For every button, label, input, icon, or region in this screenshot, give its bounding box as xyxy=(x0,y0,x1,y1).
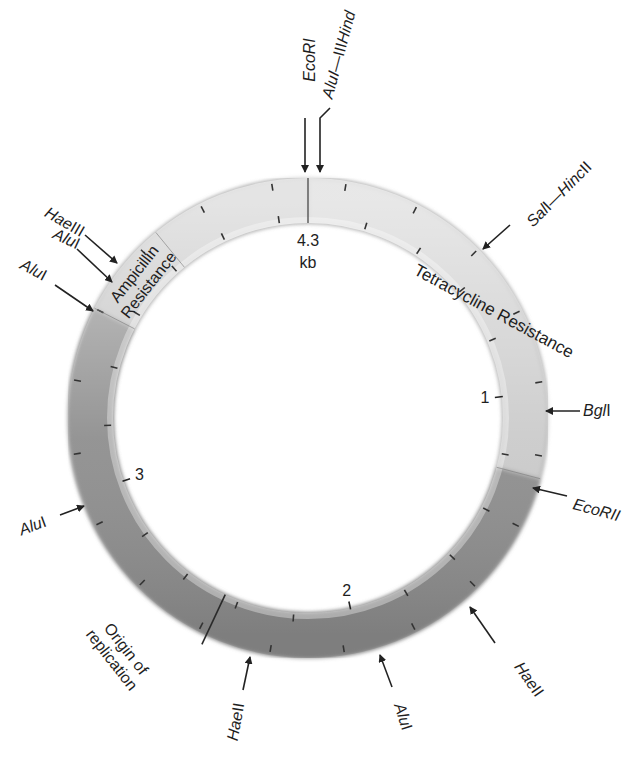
restriction-site-ecorii: EcoRII xyxy=(533,488,622,525)
tick-outer xyxy=(535,382,542,383)
site-label: AluI—IIIHind xyxy=(319,8,359,101)
arrow-icon xyxy=(60,506,84,515)
tick-major xyxy=(349,602,351,610)
scale-label-1: 1 xyxy=(480,389,489,406)
arrow-icon xyxy=(533,488,567,496)
tick-outer xyxy=(270,645,271,652)
tick-outer xyxy=(74,453,81,454)
tick-outer xyxy=(343,645,344,652)
site-label: BglI xyxy=(583,402,611,419)
site-label: HaeII xyxy=(224,701,247,742)
origin-of-replication-label: Origin ofreplication xyxy=(83,615,155,694)
scale-label-2: 2 xyxy=(342,582,351,599)
restriction-site-alui: AluI xyxy=(17,255,93,311)
plasmid-map: Tetracycline ResistanceAmpicillinResista… xyxy=(0,0,635,761)
tick-outer xyxy=(74,380,81,381)
site-label: AluI xyxy=(17,255,50,283)
arrow-icon xyxy=(483,225,510,249)
tick-major xyxy=(122,479,130,482)
arrow-icon xyxy=(55,285,93,311)
ring-dark-section xyxy=(68,308,540,658)
restriction-site-ecori: EcoRI xyxy=(301,38,318,172)
site-label: EcoRII xyxy=(571,496,622,525)
arrow-icon xyxy=(320,108,330,172)
restriction-site-haeii: HaeII xyxy=(470,607,547,700)
site-label: SalI—HincII xyxy=(523,158,595,230)
restriction-site-sali-hincii: SalI—HincII xyxy=(483,158,595,249)
plasmid-ring xyxy=(68,178,548,658)
tick-outer xyxy=(272,184,273,191)
tick-outer xyxy=(345,184,346,191)
restriction-site-haeii: HaeII xyxy=(224,657,250,742)
site-label: HaeII xyxy=(511,659,547,700)
tick-inner xyxy=(293,614,294,621)
tick-major xyxy=(495,397,503,398)
site-label: AluI xyxy=(16,513,49,539)
site-label: EcoRI xyxy=(301,38,318,82)
tick-outer xyxy=(535,455,542,456)
arrow-icon xyxy=(380,655,392,687)
restriction-site-bgli: BglI xyxy=(546,402,611,419)
tick-inner xyxy=(278,216,279,223)
arrow-icon xyxy=(470,607,495,643)
restriction-site-alui: AluI xyxy=(16,506,84,539)
restriction-site-alui-hindiii: AluI—IIIHind xyxy=(319,8,359,172)
arrow-icon xyxy=(243,657,250,690)
size-unit-label: kb xyxy=(300,254,317,271)
scale-label-3: 3 xyxy=(135,466,144,483)
site-label: AluI xyxy=(391,700,416,732)
size-value-label: 4.3 xyxy=(297,232,319,249)
arrow-icon xyxy=(85,235,117,263)
restriction-site-alui: AluI xyxy=(380,655,416,732)
